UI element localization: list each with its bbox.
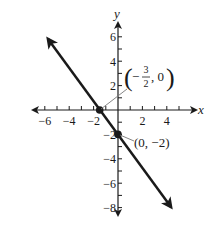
y-tick-label: −8 — [103, 201, 116, 215]
svg-text:−: − — [132, 69, 139, 84]
y-intercept-point — [114, 131, 122, 139]
x-tick-label: −2 — [87, 114, 100, 128]
y-tick-label: 4 — [110, 55, 116, 69]
annotation-x-intercept: ( − 3 2 , 0 ) — [124, 63, 175, 92]
y-tick-label: −4 — [103, 152, 116, 166]
x-tick-label: 2 — [139, 114, 145, 128]
y-tick-label: 6 — [110, 30, 116, 44]
svg-text:, 0: , 0 — [151, 69, 164, 84]
svg-text:): ) — [166, 63, 175, 92]
x-tick-label: 4 — [164, 114, 170, 128]
y-tick-label: −6 — [103, 177, 116, 191]
coordinate-plane: x −6 −4 −2 2 4 y 6 4 2 −2 −4 — [0, 0, 224, 227]
x-axis-label: x — [197, 102, 204, 117]
svg-text:2: 2 — [144, 78, 149, 89]
x-tick-label: −6 — [38, 114, 51, 128]
svg-text:3: 3 — [144, 64, 149, 75]
x-tick-label: −4 — [63, 114, 76, 128]
x-intercept-point — [96, 106, 104, 114]
y-axis-label: y — [112, 6, 120, 21]
annotation-y-intercept: (0, −2) — [134, 135, 170, 150]
y-tick-label: 2 — [110, 79, 116, 93]
